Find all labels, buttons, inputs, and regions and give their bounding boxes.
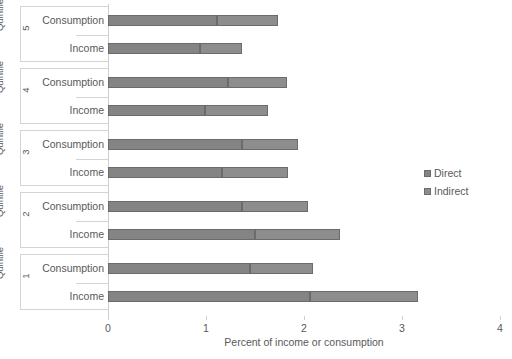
bar-segment-indirect[interactable] <box>242 139 298 150</box>
bar[interactable] <box>108 291 418 302</box>
group-number-label: 2 <box>19 183 33 245</box>
category-label: Consumption <box>42 13 104 27</box>
category-tick <box>76 35 108 36</box>
x-axis-tick <box>402 316 403 320</box>
category-label: Consumption <box>42 261 104 275</box>
x-axis-tick <box>500 316 501 320</box>
group-number-label: 1 <box>19 245 33 307</box>
bar-segment-direct[interactable] <box>108 263 250 274</box>
bar[interactable] <box>108 139 298 150</box>
group-axis-label: Quintile <box>0 170 10 232</box>
category-label: Income <box>70 289 104 303</box>
category-label: Consumption <box>42 137 104 151</box>
bar[interactable] <box>108 15 278 26</box>
x-axis-tick <box>304 316 305 320</box>
chart-container: Quintile5ConsumptionIncomeQuintile4Consu… <box>0 0 512 359</box>
group-number-label: 5 <box>19 0 33 59</box>
plot-area <box>108 4 500 316</box>
bar-segment-direct[interactable] <box>108 77 228 88</box>
category-label: Income <box>70 41 104 55</box>
bar-segment-indirect[interactable] <box>250 263 313 274</box>
bar-segment-indirect[interactable] <box>222 167 289 178</box>
group-axis-label: Quintile <box>0 232 10 294</box>
bar-segment-indirect[interactable] <box>255 229 340 240</box>
category-label: Consumption <box>42 199 104 213</box>
bar-segment-indirect[interactable] <box>217 15 278 26</box>
x-axis-title: Percent of income or consumption <box>108 336 500 348</box>
chart-legend: Direct Indirect <box>424 164 508 200</box>
bar[interactable] <box>108 263 313 274</box>
category-tick <box>76 283 108 284</box>
bar-segment-direct[interactable] <box>108 105 205 116</box>
group-number-label: 3 <box>19 121 33 183</box>
bar-segment-indirect[interactable] <box>228 77 288 88</box>
x-axis-tick-label: 2 <box>289 322 319 334</box>
bar[interactable] <box>108 167 288 178</box>
bar-segment-direct[interactable] <box>108 291 310 302</box>
bar-segment-direct[interactable] <box>108 139 242 150</box>
group-number-label: 4 <box>19 59 33 121</box>
x-axis-tick-label: 4 <box>485 322 512 334</box>
legend-label-indirect: Indirect <box>434 185 468 197</box>
x-axis-tick <box>206 316 207 320</box>
bar-segment-direct[interactable] <box>108 15 217 26</box>
group-axis-label: Quintile <box>0 0 10 46</box>
bar[interactable] <box>108 201 308 212</box>
bar[interactable] <box>108 43 242 54</box>
value-axis: 01234 <box>108 316 500 317</box>
category-label: Income <box>70 227 104 241</box>
x-axis-tick <box>108 316 109 320</box>
category-tick <box>76 97 108 98</box>
bar-segment-direct[interactable] <box>108 201 242 212</box>
bar[interactable] <box>108 229 340 240</box>
bar-segment-indirect[interactable] <box>205 105 268 116</box>
category-axis: Quintile5ConsumptionIncomeQuintile4Consu… <box>8 4 108 316</box>
category-label: Income <box>70 165 104 179</box>
category-tick <box>76 221 108 222</box>
bar[interactable] <box>108 105 268 116</box>
group-axis-label: Quintile <box>0 46 10 108</box>
bar-segment-direct[interactable] <box>108 229 255 240</box>
legend-item-direct[interactable]: Direct <box>424 164 508 182</box>
bar-segment-indirect[interactable] <box>310 291 418 302</box>
legend-swatch-direct-icon <box>424 170 431 177</box>
bar-segment-indirect[interactable] <box>242 201 308 212</box>
bar[interactable] <box>108 77 287 88</box>
category-label: Consumption <box>42 75 104 89</box>
legend-item-indirect[interactable]: Indirect <box>424 182 508 200</box>
bar-segment-direct[interactable] <box>108 43 200 54</box>
category-tick <box>76 159 108 160</box>
bar-segment-indirect[interactable] <box>200 43 242 54</box>
x-axis-tick-label: 3 <box>387 322 417 334</box>
legend-swatch-indirect-icon <box>424 188 431 195</box>
legend-label-direct: Direct <box>434 167 461 179</box>
x-axis-tick-label: 1 <box>191 322 221 334</box>
category-label: Income <box>70 103 104 117</box>
x-axis-tick-label: 0 <box>93 322 123 334</box>
bar-segment-direct[interactable] <box>108 167 222 178</box>
group-axis-label: Quintile <box>0 108 10 170</box>
